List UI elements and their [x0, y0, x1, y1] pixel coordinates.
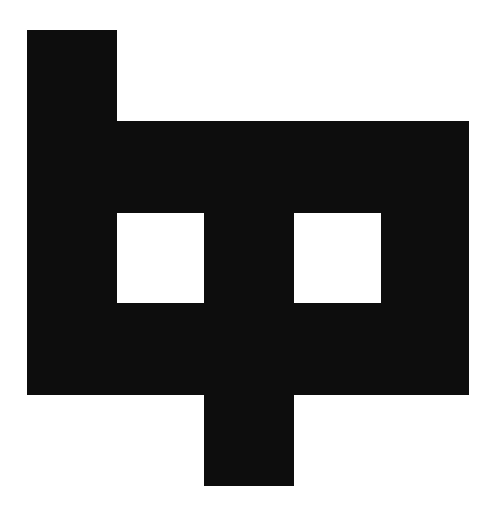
glyph-cell — [293, 121, 382, 213]
glyph-cell — [116, 121, 205, 213]
glyph-cell — [116, 303, 205, 395]
glyph-cell — [27, 121, 117, 213]
glyph-cell — [27, 212, 117, 304]
glyph-canvas — [0, 0, 489, 513]
glyph-cell — [204, 121, 294, 213]
glyph-cell — [27, 303, 117, 395]
glyph-cell — [381, 303, 469, 395]
glyph-cell — [293, 303, 382, 395]
glyph-cell — [204, 303, 294, 395]
glyph-cell — [27, 30, 117, 122]
glyph-cell — [204, 212, 294, 304]
glyph-cell — [204, 394, 294, 486]
glyph-cell — [381, 121, 469, 213]
glyph-cell — [381, 212, 469, 304]
